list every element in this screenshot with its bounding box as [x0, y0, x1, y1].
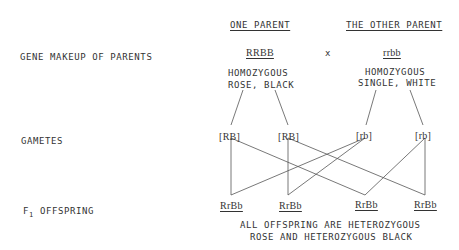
label-gametes: GAMETES — [21, 136, 63, 146]
offspring-1: RrBb — [220, 201, 243, 211]
gamete-4: [rb] — [415, 131, 431, 141]
label-gene-makeup: GENE MAKEUP OF PARENTS — [20, 52, 152, 62]
gamete-2: [RB] — [278, 132, 299, 142]
parent-one-desc-1: HOMOZYGOUS — [228, 68, 288, 78]
label-f1-offspring: F1 OFFSPRING — [23, 206, 94, 220]
parent-other-desc-2: SINGLE, WHITE — [358, 78, 436, 88]
gamete-3: [rb] — [356, 131, 372, 141]
gamete-1: [RB] — [219, 132, 240, 142]
parent-other-desc-1: HOMOZYGOUS — [365, 67, 425, 77]
offspring-2: RrBb — [279, 201, 302, 211]
conclusion-line-1: ALL OFFSPRING ARE HETEROZYGOUS — [240, 220, 421, 230]
cross-symbol: x — [325, 48, 331, 58]
conclusion-line-2: ROSE AND HETEROZYGOUS BLACK — [250, 232, 413, 242]
header-other-parent: THE OTHER PARENT — [346, 20, 442, 30]
parent-one-desc-2: ROSE, BLACK — [228, 80, 294, 90]
header-one-parent: ONE PARENT — [230, 20, 290, 30]
parent-one-genotype: RRBB — [246, 48, 274, 58]
offspring-3: RrBb — [355, 200, 378, 210]
parent-other-genotype: rrbb — [383, 48, 401, 58]
offspring-4: RrBb — [414, 200, 437, 210]
